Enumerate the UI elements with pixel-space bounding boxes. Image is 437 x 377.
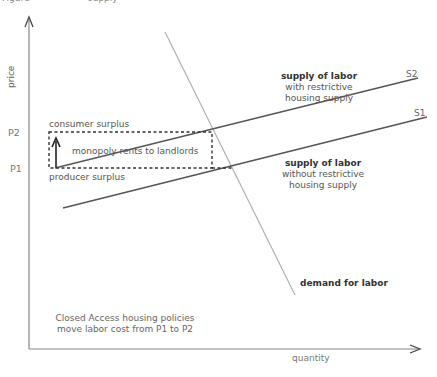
s2-title: supply of labor: [274, 71, 364, 82]
x-axis-label: quantity: [292, 353, 330, 364]
s1-line1: without restrictive: [280, 169, 366, 180]
producer-surplus-label: producer surplus: [49, 172, 125, 183]
s1-line2: housing supply: [280, 180, 366, 191]
s2-tag: S2: [406, 69, 417, 80]
supply-demand-diagram: Figure supply price P2 P1 quantity consu…: [0, 0, 437, 377]
s2-line2: housing supply: [274, 93, 364, 104]
consumer-surplus-label: consumer surplus: [49, 119, 129, 130]
s2-annotation: supply of labor with restrictive housing…: [274, 71, 364, 104]
demand-label: demand for labor: [300, 278, 388, 289]
s1-title: supply of labor: [280, 158, 366, 169]
s1-tag: S1: [414, 108, 425, 119]
policy-note: Closed Access housing policies move labo…: [50, 313, 200, 335]
p2-tick-label: P2: [8, 127, 20, 138]
policy-note-line1: Closed Access housing policies: [50, 313, 200, 324]
p1-tick-label: P1: [10, 163, 22, 174]
s1-annotation: supply of labor without restrictive hous…: [280, 158, 366, 191]
y-axis-label: price: [6, 66, 17, 88]
policy-note-line2: move labor cost from P1 to P2: [50, 324, 200, 335]
monopoly-rents-label: monopoly rents to landlords: [72, 146, 199, 157]
s2-line1: with restrictive: [274, 82, 364, 93]
